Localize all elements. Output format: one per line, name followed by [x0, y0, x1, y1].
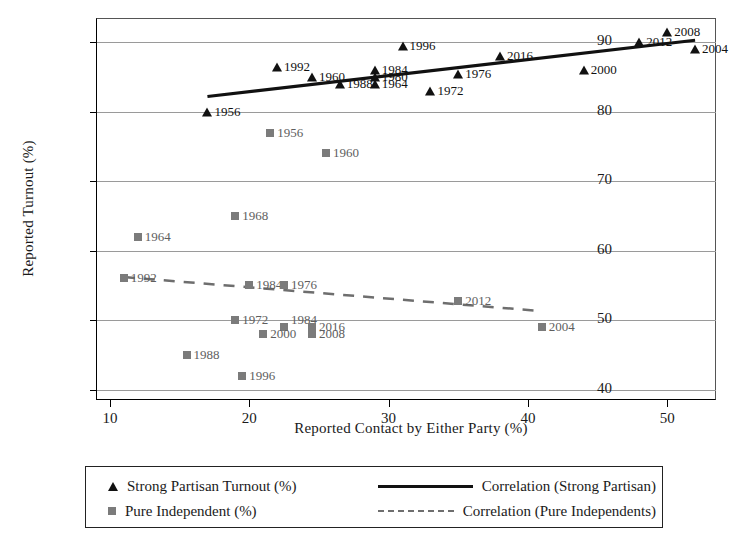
data-point-pure-independent [259, 330, 267, 338]
y-axis-title: Reported Turnout (%) [20, 89, 37, 329]
data-point-pure-independent [308, 330, 316, 338]
legend-row: Pure Independent (%) Correlation (Pure I… [86, 498, 662, 524]
data-point-label: 2012 [646, 34, 672, 50]
solid-line-icon [378, 485, 473, 488]
data-point-pure-independent [245, 281, 253, 289]
data-point-pure-independent [538, 323, 546, 331]
x-tick-label: 20 [229, 410, 269, 427]
data-point-strong-partisan [335, 79, 345, 88]
data-point-pure-independent [183, 351, 191, 359]
data-point-strong-partisan [495, 52, 505, 61]
data-point-pure-independent [322, 149, 330, 157]
data-point-label: 1976 [291, 277, 317, 293]
data-point-label: 1964 [382, 76, 408, 92]
x-tick-mark [667, 400, 668, 407]
data-point-label: 2000 [270, 326, 296, 342]
data-point-pure-independent [120, 274, 128, 282]
x-tick-label: 40 [508, 410, 548, 427]
legend-entry-strong-partisan: Strong Partisan Turnout (%) [86, 478, 378, 495]
legend-label: Correlation (Pure Independents) [463, 503, 656, 520]
data-point-label: 2008 [319, 326, 345, 342]
dashed-line-icon [378, 510, 454, 512]
x-tick-mark [528, 400, 529, 407]
data-point-strong-partisan [453, 69, 463, 78]
data-point-label: 1972 [437, 83, 463, 99]
data-point-pure-independent [454, 297, 462, 305]
data-point-strong-partisan [307, 73, 317, 82]
data-point-label: 2012 [465, 293, 491, 309]
data-point-strong-partisan [662, 27, 672, 36]
data-point-label: 1988 [194, 347, 220, 363]
triangle-marker-icon [108, 482, 118, 491]
x-tick-mark [249, 400, 250, 407]
data-point-strong-partisan [425, 86, 435, 95]
plot-area: 405060708090 1020304050 1956199219601988… [96, 18, 716, 400]
chart-legend: Strong Partisan Turnout (%) Correlation … [85, 466, 663, 528]
legend-entry-correlation-strong-partisan: Correlation (Strong Partisan) [378, 478, 656, 495]
data-point-strong-partisan [634, 38, 644, 47]
x-tick-label: 10 [90, 410, 130, 427]
data-point-pure-independent [231, 212, 239, 220]
data-point-label: 1996 [249, 368, 275, 384]
x-tick-label: 50 [647, 410, 687, 427]
legend-row: Strong Partisan Turnout (%) Correlation … [86, 473, 662, 499]
data-point-label: 1992 [131, 270, 157, 286]
x-tick-mark [110, 400, 111, 407]
data-point-pure-independent [238, 372, 246, 380]
data-point-label: 2016 [507, 48, 533, 64]
data-point-label: 2008 [674, 24, 700, 40]
x-tick-mark [389, 400, 390, 407]
data-point-strong-partisan [202, 107, 212, 116]
data-point-pure-independent [231, 316, 239, 324]
data-point-label: 1960 [333, 145, 359, 161]
x-tick-label: 30 [369, 410, 409, 427]
data-point-strong-partisan [272, 62, 282, 71]
data-point-label: 1956 [214, 104, 240, 120]
scatter-chart: Reported Turnout (%) Reported Contact by… [0, 0, 752, 559]
data-point-label: 1976 [465, 66, 491, 82]
square-marker-icon [108, 507, 116, 515]
data-point-label: 2004 [702, 41, 728, 57]
data-point-strong-partisan [690, 45, 700, 54]
data-point-label: 2000 [591, 62, 617, 78]
data-point-label: 1956 [277, 125, 303, 141]
legend-entry-correlation-pure-independents: Correlation (Pure Independents) [378, 503, 656, 520]
data-point-strong-partisan [370, 79, 380, 88]
data-point-label: 2004 [549, 319, 575, 335]
data-point-pure-independent [134, 233, 142, 241]
data-point-strong-partisan [398, 41, 408, 50]
legend-label: Pure Independent (%) [125, 503, 257, 520]
legend-entry-pure-independent: Pure Independent (%) [86, 503, 378, 520]
data-point-label: 1996 [410, 38, 436, 54]
data-point-label: 1964 [145, 229, 171, 245]
data-point-strong-partisan [579, 66, 589, 75]
data-point-pure-independent [280, 281, 288, 289]
data-point-label: 1968 [242, 208, 268, 224]
data-point-label: 1972 [242, 312, 268, 328]
legend-label: Correlation (Strong Partisan) [482, 478, 656, 495]
legend-label: Strong Partisan Turnout (%) [127, 478, 297, 495]
data-point-label: 1984 [256, 277, 282, 293]
data-point-pure-independent [266, 129, 274, 137]
